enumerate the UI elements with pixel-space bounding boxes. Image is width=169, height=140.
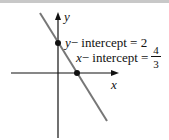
coordinate-plane [0, 0, 169, 140]
graph-line [40, 13, 107, 121]
y-intercept-point [55, 40, 61, 46]
fraction-bar [151, 56, 161, 57]
y-intercept-label: y− intercept = 2 [65, 36, 147, 49]
x-intercept-fraction-denominator: 3 [151, 58, 161, 70]
x-intercept-fraction-numerator: 4 [151, 44, 161, 56]
y-axis-label: y [64, 10, 70, 23]
x-intercept-label: x− intercept = [76, 51, 148, 64]
x-axis-label: x [111, 78, 117, 91]
x-axis-arrow-icon [111, 70, 119, 76]
y-axis-arrow-icon [55, 12, 61, 20]
x-intercept-point [74, 70, 80, 76]
